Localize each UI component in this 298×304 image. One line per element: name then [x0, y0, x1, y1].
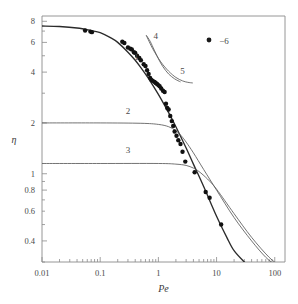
data-point — [207, 196, 211, 200]
data-point — [203, 190, 207, 194]
legend-marker-icon — [207, 38, 212, 43]
legend-label-0: −6 — [219, 36, 229, 46]
curve-label-2: 2 — [126, 106, 131, 116]
data-point — [162, 90, 166, 94]
curve-label-3: 3 — [126, 145, 131, 155]
y-tick-label-1: 0.6 — [24, 206, 35, 216]
y-tick-label-7: 8 — [31, 16, 35, 26]
y-tick-label-4: 2 — [31, 118, 35, 128]
y-axis-title: η — [12, 134, 17, 145]
data-point — [174, 134, 178, 138]
plot-frame — [42, 16, 285, 262]
series-curve-5 — [146, 35, 192, 83]
data-point — [90, 30, 94, 34]
series-curve-4 — [146, 35, 180, 82]
y-tick-label-6: 6 — [31, 37, 35, 47]
x-tick-label-0: 0.01 — [35, 268, 50, 278]
data-point — [139, 58, 143, 62]
data-point — [192, 170, 196, 174]
series-curve-1 — [42, 26, 252, 268]
data-point — [176, 138, 180, 142]
x-tick-label-3: 10 — [212, 268, 221, 278]
data-point — [178, 142, 182, 146]
data-point — [170, 119, 174, 123]
x-tick-label-2: 1 — [156, 268, 160, 278]
data-point — [164, 101, 168, 105]
data-point — [122, 41, 126, 45]
data-point — [180, 150, 184, 154]
x-axis-title: Pe — [157, 283, 169, 294]
data-point — [168, 114, 172, 118]
data-point — [171, 124, 175, 128]
series-curve-3 — [42, 163, 281, 267]
curve-label-1: 1 — [134, 52, 139, 62]
data-point — [183, 159, 187, 163]
y-tick-label-0: 0.4 — [24, 236, 35, 246]
curve-label-4: 4 — [153, 31, 158, 41]
data-point — [146, 72, 150, 76]
x-tick-label-4: 100 — [268, 268, 281, 278]
chart-svg: 0.010.11101000.40.60.812468Peη12345−6 — [0, 0, 298, 304]
y-tick-label-5: 4 — [31, 67, 36, 77]
figure-container: 0.010.11101000.40.60.812468Peη12345−6 — [0, 0, 298, 304]
data-point — [166, 107, 170, 111]
data-point — [172, 129, 176, 133]
y-tick-label-2: 0.8 — [24, 185, 35, 195]
series-curve-2 — [42, 123, 275, 265]
data-point — [143, 64, 147, 68]
x-tick-label-1: 0.1 — [95, 268, 106, 278]
y-tick-label-3: 1 — [31, 169, 35, 179]
curve-label-5: 5 — [180, 66, 185, 76]
data-point — [219, 222, 223, 226]
data-point — [83, 28, 87, 32]
